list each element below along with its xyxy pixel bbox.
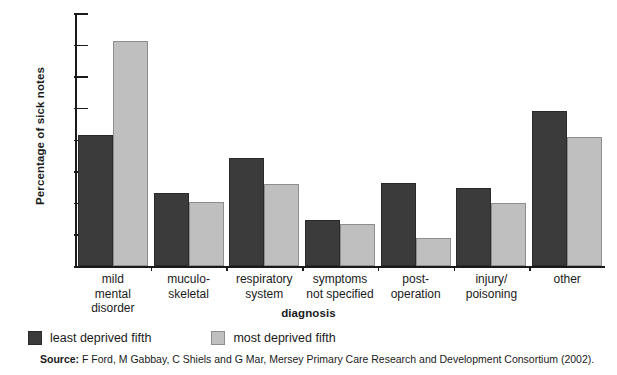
category-label-line: other xyxy=(529,272,605,287)
bar-most-deprived xyxy=(189,202,224,267)
bar-group xyxy=(229,13,299,266)
bar-least-deprived xyxy=(381,183,416,266)
bar-most-deprived xyxy=(491,203,526,266)
x-axis-category-label: injury/poisoning xyxy=(454,272,530,301)
category-label-line: muculo- xyxy=(151,272,227,287)
bar-least-deprived xyxy=(456,188,491,266)
x-axis-title: diagnosis xyxy=(0,307,617,319)
x-axis-tick xyxy=(151,266,153,271)
source-prefix: Source: xyxy=(40,353,79,365)
bar-group xyxy=(154,13,224,266)
x-axis-category-label: muculo-skeletal xyxy=(151,272,227,301)
x-axis-category-label: respiratorysystem xyxy=(226,272,302,301)
category-label-line: symptoms xyxy=(302,272,378,287)
x-axis-category-label: other xyxy=(529,272,605,287)
legend-item: least deprived fifth xyxy=(28,331,151,345)
chart-legend: least deprived fifthmost deprived fifth xyxy=(28,329,336,347)
x-axis-tick xyxy=(529,266,531,271)
bar-least-deprived xyxy=(154,193,189,266)
x-axis-tick xyxy=(302,266,304,271)
x-axis-category-label: symptomsnot specified xyxy=(302,272,378,301)
category-label-line: operation xyxy=(378,287,454,302)
legend-label: most deprived fifth xyxy=(233,331,335,345)
y-axis-tick xyxy=(74,266,88,268)
bar-group xyxy=(305,13,375,266)
bar-least-deprived xyxy=(229,158,264,266)
plot-area xyxy=(75,13,605,266)
category-label-line: respiratory xyxy=(226,272,302,287)
bar-group xyxy=(532,13,602,266)
x-axis-tick xyxy=(226,266,228,271)
bar-most-deprived xyxy=(340,224,375,266)
bar-group xyxy=(381,13,451,266)
category-label-line: mental xyxy=(75,287,151,302)
bar-most-deprived xyxy=(567,137,602,266)
legend-item: most deprived fifth xyxy=(211,331,335,345)
bar-least-deprived xyxy=(532,111,567,266)
x-axis-tick xyxy=(378,266,380,271)
bar-most-deprived xyxy=(416,238,451,266)
legend-swatch-icon xyxy=(211,331,225,345)
x-axis-line xyxy=(75,266,605,268)
category-label-line: skeletal xyxy=(151,287,227,302)
legend-swatch-icon xyxy=(28,331,42,345)
chart-figure: Percentage of sick notes 051015202530354… xyxy=(0,0,617,375)
bar-least-deprived xyxy=(78,135,113,266)
x-axis-tick xyxy=(454,266,456,271)
category-label-line: system xyxy=(226,287,302,302)
bar-most-deprived xyxy=(264,184,299,266)
legend-label: least deprived fifth xyxy=(50,331,151,345)
y-axis-title: Percentage of sick notes xyxy=(34,16,46,256)
bar-group xyxy=(78,13,148,266)
category-label-line: injury/ xyxy=(454,272,530,287)
bar-group xyxy=(456,13,526,266)
bar-most-deprived xyxy=(113,41,148,266)
category-label-line: not specified xyxy=(302,287,378,302)
category-label-line: post- xyxy=(378,272,454,287)
source-note: Source: F Ford, M Gabbay, C Shiels and G… xyxy=(40,353,594,365)
source-text: F Ford, M Gabbay, C Shiels and G Mar, Me… xyxy=(79,353,594,365)
x-axis-category-label: post-operation xyxy=(378,272,454,301)
category-label-line: mild xyxy=(75,272,151,287)
category-label-line: poisoning xyxy=(454,287,530,302)
bar-least-deprived xyxy=(305,220,340,266)
